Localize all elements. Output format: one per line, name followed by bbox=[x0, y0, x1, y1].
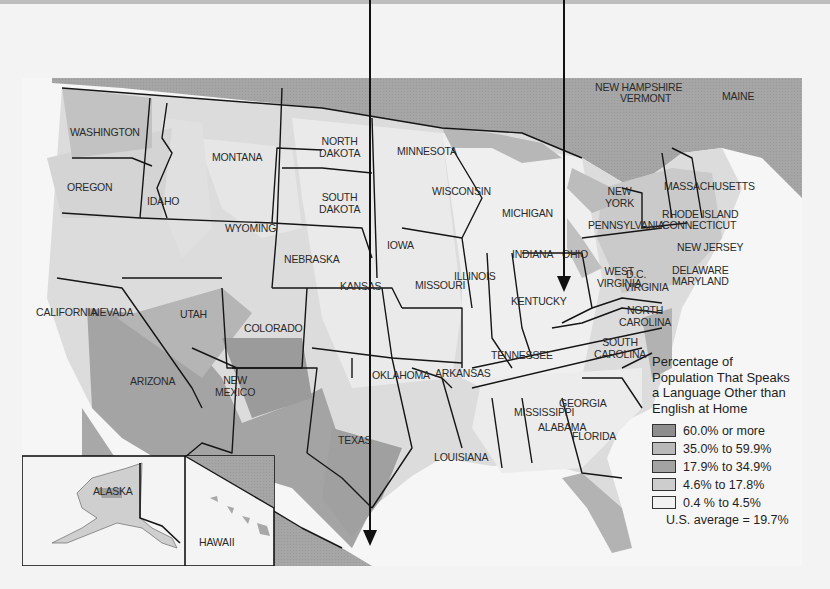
label-iowa: IOWA bbox=[387, 239, 414, 251]
label-north-carolina-line1: NORTH bbox=[627, 304, 663, 316]
legend-swatch bbox=[652, 424, 676, 437]
label-pennsylvania: PENNSYLVANIA bbox=[588, 219, 665, 231]
label-arkansas: ARKANSAS bbox=[435, 367, 491, 379]
legend-swatch bbox=[652, 442, 676, 455]
legend-label: 35.0% to 59.9% bbox=[683, 442, 771, 456]
label-south-dakota-line1: SOUTH bbox=[322, 191, 358, 203]
label-kentucky: KENTUCKY bbox=[511, 295, 567, 307]
label-texas: TEXAS bbox=[338, 434, 371, 446]
label-south-dakota-line2: DAKOTA bbox=[319, 203, 360, 215]
legend-swatch bbox=[652, 478, 676, 491]
legend-label: 17.9% to 34.9% bbox=[683, 460, 771, 474]
legend-swatch bbox=[652, 496, 676, 509]
label-idaho: IDAHO bbox=[147, 195, 179, 207]
label-north-carolina-line2: CAROLINA bbox=[619, 316, 671, 328]
label-north-dakota-line1: NORTH bbox=[322, 135, 358, 147]
legend-item-4-17: 4.6% to 17.8% bbox=[652, 476, 822, 493]
legend-title: Percentage of Population That Speaks a L… bbox=[652, 354, 822, 416]
label-nevada: NEVADA bbox=[92, 306, 133, 318]
label-hawaii: HAWAII bbox=[199, 536, 234, 548]
label-south-dakota: SOUTHDAKOTA bbox=[319, 191, 360, 215]
label-alaska: ALASKA bbox=[93, 485, 133, 497]
arrowhead-down-ohio-icon bbox=[557, 276, 571, 292]
label-new-jersey: NEW JERSEY bbox=[677, 241, 743, 253]
legend-label: 60.0% or more bbox=[683, 424, 765, 438]
legend-item-35-59: 35.0% to 59.9% bbox=[652, 440, 822, 457]
label-vermont: VERMONT bbox=[620, 92, 671, 104]
legend-title-line3: a Language Other than bbox=[652, 385, 822, 401]
label-oklahoma: OKLAHOMA bbox=[372, 369, 430, 381]
label-indiana: INDIANA bbox=[512, 248, 553, 260]
label-north-carolina: NORTHCAROLINA bbox=[619, 304, 671, 328]
legend-label: 4.6% to 17.8% bbox=[683, 478, 764, 492]
label-south-carolina-line1: SOUTH bbox=[602, 336, 638, 348]
label-arizona: ARIZONA bbox=[130, 375, 175, 387]
label-michigan: MICHIGAN bbox=[502, 207, 553, 219]
arrowhead-down-texas-icon bbox=[363, 530, 377, 546]
label-missouri: MISSOURI bbox=[415, 279, 465, 291]
label-utah: UTAH bbox=[180, 308, 207, 320]
label-maine: MAINE bbox=[722, 90, 754, 102]
legend-item-17-34: 17.9% to 34.9% bbox=[652, 458, 822, 475]
map-legend: Percentage of Population That Speaks a L… bbox=[652, 354, 822, 527]
label-dc: D.C. bbox=[626, 268, 646, 280]
top-border-band bbox=[0, 0, 830, 4]
label-new-mexico: NEWMEXICO bbox=[215, 374, 255, 398]
label-nebraska: NEBRASKA bbox=[284, 253, 340, 265]
label-massachusetts: MASSACHUSETTS bbox=[664, 180, 755, 192]
label-new-mexico-line2: MEXICO bbox=[215, 386, 255, 398]
label-washington: WASHINGTON bbox=[70, 126, 140, 138]
arrow-line-ohio bbox=[563, 0, 565, 278]
arrow-line-texas bbox=[369, 0, 371, 532]
label-new-york: NEWYORK bbox=[605, 185, 634, 209]
label-maryland: MARYLAND bbox=[672, 275, 729, 287]
legend-item-0-4: 0.4 % to 4.5% bbox=[652, 494, 822, 511]
label-new-york-line1: NEW bbox=[608, 185, 632, 197]
label-louisiana: LOUISIANA bbox=[434, 451, 488, 463]
legend-title-line4: English at Home bbox=[652, 401, 822, 417]
label-virginia: VIRGINIA bbox=[624, 281, 669, 293]
legend-label: 0.4 % to 4.5% bbox=[683, 496, 761, 510]
label-new-york-line2: YORK bbox=[605, 197, 634, 209]
label-california: CALIFORNIA bbox=[36, 306, 97, 318]
label-north-dakota: NORTHDAKOTA bbox=[319, 135, 360, 159]
label-tennessee: TENNESSEE bbox=[491, 349, 553, 361]
legend-us-average: U.S. average = 19.7% bbox=[666, 513, 822, 527]
label-south-carolina-line2: CAROLINA bbox=[594, 348, 646, 360]
label-north-dakota-line2: DAKOTA bbox=[319, 147, 360, 159]
legend-swatch bbox=[652, 460, 676, 473]
label-south-carolina: SOUTHCAROLINA bbox=[594, 336, 646, 360]
map-page: WASHINGTON MONTANA OREGON IDAHO WYOMING … bbox=[0, 0, 830, 589]
label-wyoming: WYOMING bbox=[225, 222, 276, 234]
label-georgia: GEORGIA bbox=[559, 397, 607, 409]
label-kansas: KANSAS bbox=[340, 280, 381, 292]
label-oregon: OREGON bbox=[67, 181, 112, 193]
label-minnesota: MINNESOTA bbox=[397, 145, 457, 157]
legend-title-line1: Percentage of bbox=[652, 354, 822, 370]
legend-item-60-plus: 60.0% or more bbox=[652, 422, 822, 439]
legend-title-line2: Population That Speaks bbox=[652, 370, 822, 386]
label-connecticut: CONNECTICUT bbox=[662, 219, 736, 231]
label-new-mexico-line1: NEW bbox=[223, 374, 247, 386]
label-colorado: COLORADO bbox=[244, 322, 303, 334]
label-florida: FLORIDA bbox=[572, 430, 616, 442]
label-ohio: OHIO bbox=[562, 248, 588, 260]
label-montana: MONTANA bbox=[212, 151, 262, 163]
label-wisconsin: WISCONSIN bbox=[432, 185, 491, 197]
